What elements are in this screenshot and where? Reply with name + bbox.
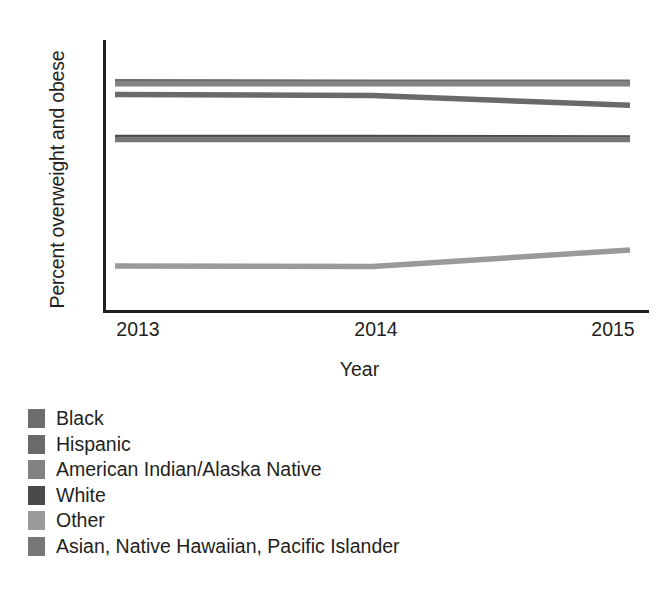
- legend-item[interactable]: Hispanic: [28, 432, 648, 458]
- legend-item[interactable]: Asian, Native Hawaiian, Pacific Islander: [28, 534, 648, 560]
- x-axis-title: Year: [0, 358, 661, 381]
- plot-area: [103, 42, 648, 310]
- legend-item[interactable]: American Indian/Alaska Native: [28, 457, 648, 483]
- legend-swatch-icon: [28, 486, 45, 505]
- y-axis-title: Percent overweight and obese: [46, 25, 69, 335]
- legend-swatch-icon: [28, 537, 45, 556]
- legend-item[interactable]: Other: [28, 508, 648, 534]
- legend-item-label: American Indian/Alaska Native: [56, 460, 322, 480]
- x-tick-2015: 2015: [591, 318, 634, 341]
- series-line: [115, 250, 630, 267]
- chart-figure: Percent overweight and obese 80 70 60 50…: [0, 0, 661, 592]
- legend-swatch-icon: [28, 460, 45, 479]
- legend-swatch-icon: [28, 511, 45, 530]
- legend-swatch-icon: [28, 435, 45, 454]
- legend-item[interactable]: Black: [28, 406, 648, 432]
- chart-legend: BlackHispanicAmerican Indian/Alaska Nati…: [28, 406, 648, 559]
- series-line: [115, 95, 630, 106]
- legend-swatch-icon: [28, 409, 45, 428]
- legend-item-label: White: [56, 486, 106, 506]
- x-axis-line: [103, 310, 649, 313]
- legend-item[interactable]: White: [28, 483, 648, 509]
- legend-item-label: Asian, Native Hawaiian, Pacific Islander: [56, 537, 400, 557]
- legend-item-label: Black: [56, 409, 104, 429]
- x-axis-title-text: Year: [340, 358, 379, 381]
- x-tick-2014: 2014: [354, 318, 397, 341]
- x-tick-2013: 2013: [116, 318, 159, 341]
- series-lines: [103, 42, 648, 310]
- legend-item-label: Hispanic: [56, 435, 131, 455]
- legend-item-label: Other: [56, 511, 105, 531]
